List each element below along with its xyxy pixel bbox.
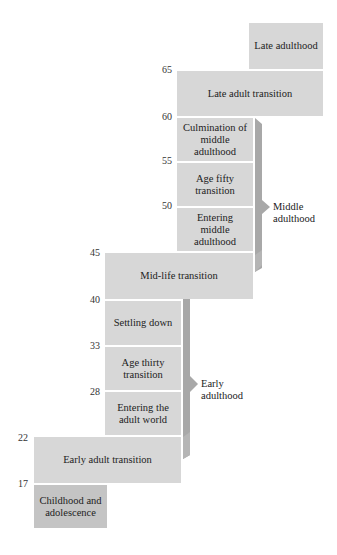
middle-adulthood-bracket xyxy=(255,118,270,272)
stage-entering-middle-adulthood: Entering middle adulthood xyxy=(177,208,253,251)
stage-childhood-adolescence: Childhood and adolescence xyxy=(34,485,107,528)
age-40: 40 xyxy=(90,294,100,305)
age-22: 22 xyxy=(18,432,28,443)
stage-entering-adult-world: Entering the adult world xyxy=(105,392,181,435)
age-65: 65 xyxy=(162,64,172,75)
stage-late-adulthood: Late adulthood xyxy=(249,23,323,69)
stage-age-fifty-transition: Age fifty transition xyxy=(177,163,253,206)
age-33: 33 xyxy=(90,340,100,351)
early-adulthood-label: Early adulthood xyxy=(201,378,243,402)
stage-late-adult-transition: Late adult transition xyxy=(177,71,323,116)
age-60: 60 xyxy=(162,111,172,122)
stage-age-thirty-transition: Age thirty transition xyxy=(105,347,181,390)
stage-settling-down: Settling down xyxy=(105,301,181,345)
age-17: 17 xyxy=(18,478,28,489)
age-28: 28 xyxy=(90,386,100,397)
stage-early-adult-transition: Early adult transition xyxy=(34,437,181,483)
stage-mid-life-transition: Mid-life transition xyxy=(105,253,253,299)
middle-adulthood-label: Middle adulthood xyxy=(273,201,315,225)
age-45: 45 xyxy=(90,247,100,258)
stage-culmination-middle-adulthood: Culmination of middle adulthood xyxy=(177,118,253,161)
age-50: 50 xyxy=(162,200,172,211)
age-55: 55 xyxy=(162,155,172,166)
early-adulthood-bracket xyxy=(183,291,198,459)
